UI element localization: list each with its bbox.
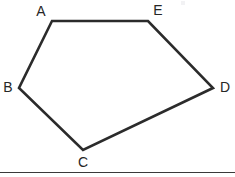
vertex-label-a: A — [36, 3, 46, 19]
vertex-label-c: C — [78, 154, 88, 170]
corner-speck-artifact — [181, 1, 185, 5]
vertex-label-d: D — [220, 79, 230, 95]
figure-canvas: A B C D E — [0, 0, 235, 177]
pentagon-diagram: A B C D E — [0, 0, 235, 177]
vertex-label-b: B — [3, 79, 12, 95]
vertex-label-e: E — [153, 2, 162, 18]
pentagon-outline — [19, 21, 213, 150]
